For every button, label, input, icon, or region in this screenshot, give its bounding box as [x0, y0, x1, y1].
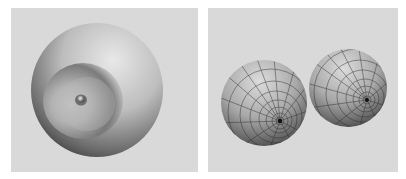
wireframe-sphere-left [215, 48, 321, 161]
center-nub [77, 95, 84, 102]
right-render-panel: Two wireframe-shaded spheres, each with … [208, 8, 398, 172]
left-render-panel: Smooth shaded sphere with a funnel-shape… [11, 8, 198, 172]
wireframe-sphere-right [301, 37, 398, 143]
wireframe-spheres-render [208, 8, 398, 172]
dimpled-sphere-render [11, 8, 198, 172]
